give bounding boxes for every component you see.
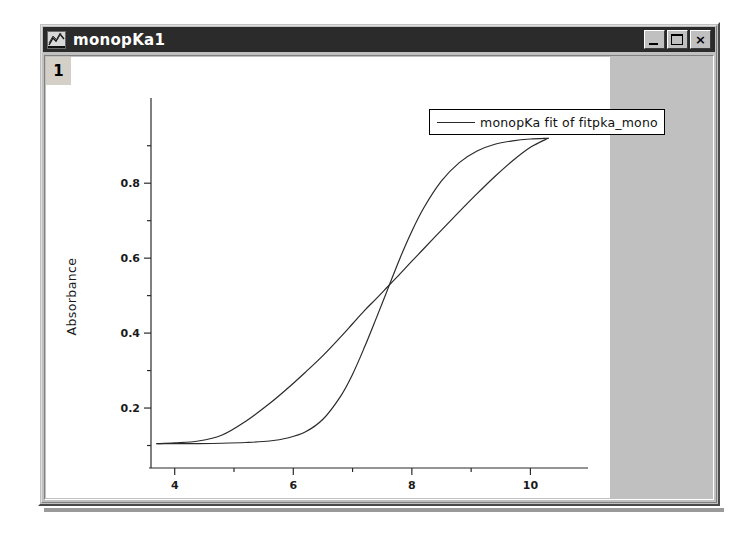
chart-window-icon (47, 31, 66, 49)
title-bar[interactable]: monopKa1 × (43, 27, 715, 52)
x-tick-label: 4 (171, 479, 179, 492)
window-controls: × (644, 30, 711, 49)
legend-line-sample (437, 122, 475, 123)
layer-number-tag[interactable]: 1 (46, 57, 71, 85)
close-button[interactable]: × (690, 30, 711, 49)
legend-label: monopKa fit of fitpka_mono (480, 115, 658, 130)
window-client-area: 0.20.40.60.846810 Absorbance pH Buffer V… (44, 55, 714, 500)
plot-page[interactable]: 0.20.40.60.846810 Absorbance pH Buffer V… (46, 57, 610, 498)
minimize-button[interactable] (644, 30, 665, 49)
x-tick-label: 10 (523, 479, 538, 492)
window-title: monopKa1 (73, 31, 165, 49)
window-drop-shadow (44, 508, 724, 512)
close-icon: × (691, 31, 710, 48)
screen: monopKa1 × (0, 0, 750, 535)
y-axis-title: Absorbance (64, 237, 79, 357)
chart-legend[interactable]: monopKa fit of fitpka_mono (429, 109, 665, 135)
y-tick-label: 0.8 (108, 177, 140, 190)
x-tick-label: 8 (408, 479, 416, 492)
minimize-icon (649, 43, 658, 45)
y-tick-label: 0.6 (108, 252, 140, 265)
maximize-icon (671, 34, 683, 45)
application-window: monopKa1 × (38, 22, 720, 506)
y-tick-label: 0.2 (108, 402, 140, 415)
maximize-button[interactable] (667, 30, 688, 49)
y-tick-label: 0.4 (108, 327, 140, 340)
x-tick-label: 6 (289, 479, 297, 492)
